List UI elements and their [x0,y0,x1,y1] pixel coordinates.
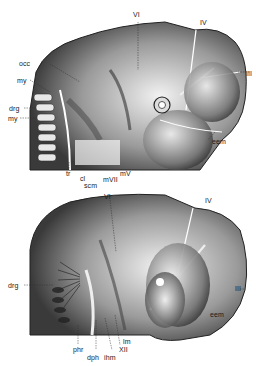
label-lower-lm: lm [123,338,131,346]
label-lower-IV: IV [205,197,212,205]
label-lower-III: III [235,285,241,293]
label-upper-mVII: mVII [103,176,118,184]
label-upper-my: my [17,77,27,85]
label-lower-XII: XII [119,346,128,354]
label-lower-VI: VI [104,193,111,201]
label-upper-IV: IV [200,19,207,27]
label-upper-occ: occ [19,60,30,68]
label-upper-scm: scm [84,182,97,190]
label-upper-eem: eem [212,138,226,146]
lower-embryo [24,194,247,350]
label-upper-drg: drg [9,105,19,113]
label-lower-drg: drg [8,282,18,290]
label-lower-phr: phr [73,346,83,354]
label-upper-mV: mV [120,170,131,178]
label-upper-VI: VI [133,11,140,19]
label-lower-dph: dph [87,354,99,362]
label-upper-tr: tr [66,170,70,178]
label-upper-III: III [246,70,252,78]
label-lower-eem: eem [210,311,224,319]
label-upper-my-2: my [8,115,18,123]
upper-embryo [20,22,250,170]
label-lower-ihm: ihm [104,354,116,362]
